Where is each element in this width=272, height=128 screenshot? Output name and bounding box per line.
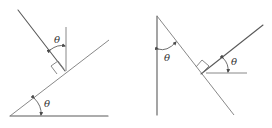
left-bottom-angle-arc <box>34 98 41 115</box>
left-incline-line <box>10 40 109 116</box>
right-left-angle-arc <box>158 42 176 50</box>
right-right-angle-arc <box>223 58 228 72</box>
right-slanted-line <box>157 16 234 115</box>
right-left-theta-label: θ <box>164 52 170 63</box>
right-right-theta-label: θ <box>231 56 237 67</box>
left-diagram: θ θ <box>10 10 109 116</box>
right-right-angle-marker <box>196 60 209 73</box>
right-diagram: θ θ <box>157 16 263 115</box>
left-top-angle-arc <box>50 46 65 51</box>
figure-canvas: θ θ θ θ <box>0 0 272 128</box>
left-top-theta-label: θ <box>54 34 60 45</box>
left-bottom-theta-label: θ <box>44 98 50 109</box>
geometry-diagram: θ θ θ θ <box>0 0 272 128</box>
